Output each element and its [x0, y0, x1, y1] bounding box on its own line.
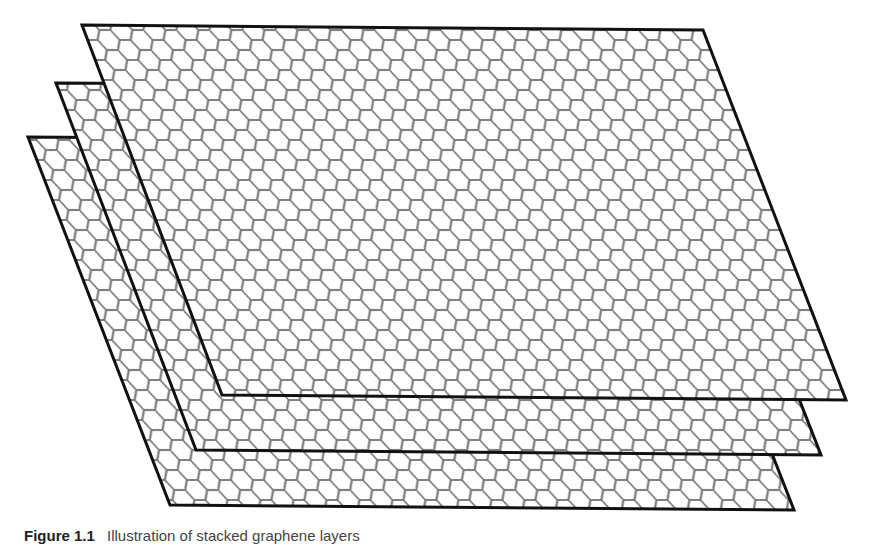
- caption-text: Illustration of stacked graphene layers: [107, 527, 360, 544]
- caption-label: Figure 1.1: [24, 527, 95, 544]
- figure-caption: Figure 1.1 Illustration of stacked graph…: [24, 527, 360, 545]
